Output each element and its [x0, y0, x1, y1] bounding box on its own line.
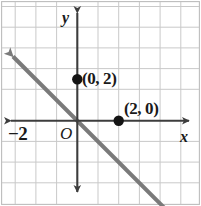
origin-label: O: [60, 125, 72, 142]
grid-lines-horizontal: [2, 7, 199, 183]
point-label-2-0: (2, 0): [124, 100, 158, 117]
data-point-2-0: [114, 116, 124, 126]
data-point-0-2: [72, 74, 82, 84]
x-axis-tick-label-minus-2: −2: [8, 124, 27, 143]
y-axis-name: y: [62, 10, 69, 26]
coordinate-plane-figure: (0, 2) (2, 0) −2 O x y: [0, 0, 201, 206]
graph-canvas: [0, 0, 201, 206]
point-label-0-2: (0, 2): [82, 70, 116, 87]
plot-frame: [2, 2, 200, 205]
x-axis-name: x: [180, 129, 188, 145]
